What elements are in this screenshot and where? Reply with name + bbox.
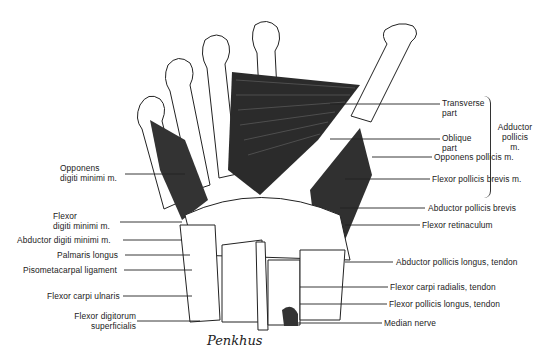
- label-abductor-digiti-minimi: Abductor digiti minimi m.: [17, 235, 111, 245]
- label-flexor-digitorum-superficialis: Flexor digitorum superficialis: [56, 311, 136, 331]
- label-abductor-pollicis-brevis: Abductor pollicis brevis: [428, 203, 516, 213]
- label-flexor-pollicis-longus: Flexor pollicis longus, tendon: [389, 299, 500, 309]
- artist-signature: Penkhus: [207, 333, 263, 348]
- label-abductor-pollicis-longus: Abductor pollicis longus, tendon: [396, 257, 517, 267]
- label-oblique-part: Oblique part: [442, 133, 472, 153]
- hand-anatomy-figure: Transverse part Oblique part Adductor po…: [0, 0, 543, 356]
- label-palmaris-longus: Palmaris longus: [57, 250, 118, 260]
- label-pisometacarpal-ligament: Pisometacarpal ligament: [23, 265, 117, 275]
- label-flexor-digiti-minimi: Flexor digiti minimi m.: [53, 211, 110, 231]
- label-flexor-retinaculum: Flexor retinaculum: [422, 220, 493, 230]
- label-opponens-digiti-minimi: Opponens digiti minimi m.: [60, 163, 117, 183]
- label-flexor-pollicis-brevis: Flexor pollicis brevis m.: [432, 174, 522, 184]
- label-flexor-carpi-radialis: Flexor carpi radialis, tendon: [390, 282, 496, 292]
- label-median-nerve: Median nerve: [384, 318, 436, 328]
- label-transverse-part: Transverse part: [442, 98, 485, 118]
- label-adductor-pollicis: Adductor pollicis m.: [490, 122, 540, 152]
- label-flexor-carpi-ulnaris: Flexor carpi ulnaris: [47, 291, 120, 301]
- label-opponens-pollicis: Opponens pollicis m.: [434, 152, 514, 162]
